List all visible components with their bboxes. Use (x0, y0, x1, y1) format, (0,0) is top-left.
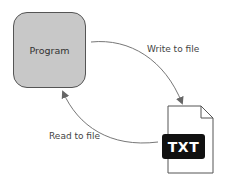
program-label: Program (29, 45, 69, 56)
txt-file-badge: TXT (162, 134, 205, 159)
program-node: Program (13, 12, 86, 88)
write-edge-label: Write to file (147, 44, 199, 54)
read-edge-label: Read to file (49, 131, 100, 141)
